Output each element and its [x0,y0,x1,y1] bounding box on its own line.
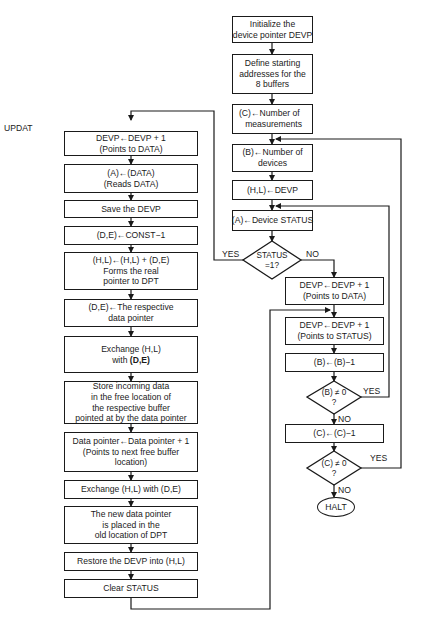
c-measurements-box: (C)←Number of measurements [232,104,313,134]
b-num-line-1: (B)←Number of [242,147,302,158]
define-line-3: 8 buffers [256,79,289,90]
b-dec-text: (B)←(B)−1 [314,357,355,368]
read-data-box: (A)←(DATA) (Reads DATA) [64,164,198,193]
s9-line-2: (Points to next free buffer [83,447,179,458]
init-line-2: device pointer DEVP [233,30,312,41]
b-decision-line-1: (B) ≠ 0 [312,388,356,398]
s11-line-2: is placed in the [102,520,159,531]
s8-line-4: pointed at by the data pointer [75,413,186,424]
b-decrement-box: (B)←(B)−1 [285,353,384,372]
s1-line-1: DEVP←DEVP + 1 [96,133,166,144]
halt-text: HALT [325,502,346,512]
updat-devp-data-box: DEVP←DEVP + 1 (Points to DATA) [64,131,198,156]
define-line-1: Define starting [245,58,300,69]
s7-de-bold: (D,E) [130,355,150,365]
hl-devp-text: (H,L)←DEVP [247,185,298,196]
devp-data-line-1: DEVP←DEVP + 1 [300,280,370,291]
status-no-label: NO [306,249,319,259]
s8-line-2: in the free location of [91,392,171,403]
s6-line-2: data pointer [108,313,153,324]
s9-line-3: location) [115,457,147,468]
devp-status-line-2: (Points to STATUS) [297,331,371,342]
store-data-box: Store incoming data in the free location… [64,381,198,424]
save-devp-box: Save the DEVP [64,200,198,218]
exchange-hl-de-box-1: Exchange (H,L) with (D,E) [64,336,198,373]
form-dpt-pointer-box: (H,L)←(H,L) + (D,E) Forms the real point… [64,252,198,290]
restore-devp-box: Restore the DEVP into (H,L) [64,552,198,571]
s12-text: Restore the DEVP into (H,L) [77,556,185,567]
s5-line-3: pointer to DPT [103,276,158,287]
s7-line-2: with (D,E) [112,355,150,366]
exchange-hl-de-box-2: Exchange (H,L) with (D,E) [64,480,198,499]
b-decision-text: (B) ≠ 0 ? [312,388,356,407]
a-status-box: (A)←Device STATUS [232,210,313,231]
devp-data-line-2: (Points to DATA) [303,291,366,302]
s7-line-1: Exchange (H,L) [101,344,161,355]
s3-text: Save the DEVP [101,204,161,215]
s8-line-1: Store incoming data [93,381,169,392]
a-status-text: (A)←Device STATUS [232,215,313,226]
status-decision-line-1: STATUS [250,251,294,261]
s13-text: Clear STATUS [103,583,159,594]
s7-with: with [112,355,127,365]
s6-line-1: (D,E)←The respective [88,302,173,313]
s2-line-1: (A)←(DATA) [107,168,154,179]
define-buffers-box: Define starting addresses for the 8 buff… [232,54,313,94]
c-yes-label: YES [370,453,387,463]
updat-label: UPDAT [4,123,33,133]
init-line-1: Initialize the [250,19,295,30]
b-num-line-2: devices [258,158,287,169]
increment-data-pointer-box: Data pointer←Data pointer + 1 (Points to… [64,432,198,472]
b-decision-line-2: ? [312,398,356,408]
status-yes-label: YES [222,249,239,259]
s5-line-2: Forms the real [103,266,158,277]
clear-status-box: Clear STATUS [64,579,198,598]
define-line-2: addresses for the [239,69,305,80]
s9-line-1: Data pointer←Data pointer + 1 [73,436,190,447]
c-num-line-1: (C)←Number of [233,108,300,119]
s10-text: Exchange (H,L) with (D,E) [81,484,181,495]
status-decision-text: STATUS =1? [250,251,294,270]
c-dec-text: (C)←(C)−1 [313,428,355,439]
s2-line-2: (Reads DATA) [104,179,159,190]
c-decision-line-1: (C) ≠ 0 [312,459,356,469]
hl-devp-box: (H,L)←DEVP [232,180,313,200]
s11-line-3: old location of DPT [95,530,168,541]
s1-line-2: (Points to DATA) [99,144,162,155]
c-decision-text: (C) ≠ 0 ? [312,459,356,478]
b-no-label: NO [338,414,351,424]
c-num-line-2: measurements [245,119,312,130]
s4-text: (D,E)←CONST−1 [97,230,166,241]
s8-line-3: the respective buffer [92,403,170,414]
c-decrement-box: (C)←(C)−1 [285,424,384,443]
c-no-label: NO [338,485,351,495]
halt-terminal: HALT [317,497,355,517]
b-yes-label: YES [363,386,380,396]
s5-line-1: (H,L)←(H,L) + (D,E) [93,255,170,266]
status-decision-line-2: =1? [250,261,294,271]
init-devp-box: Initialize the device pointer DEVP [232,16,313,43]
s11-line-1: The new data pointer [91,509,172,520]
devp-status-line-1: DEVP←DEVP + 1 [300,320,370,331]
b-devices-box: (B)←Number of devices [232,144,313,172]
store-new-pointer-box: The new data pointer is placed in the ol… [64,506,198,544]
c-decision-line-2: ? [312,469,356,479]
de-const-box: (D,E)←CONST−1 [64,226,198,245]
de-data-pointer-box: (D,E)←The respective data pointer [64,299,198,327]
devp-data-box: DEVP←DEVP + 1 (Points to DATA) [285,277,384,305]
devp-status-box: DEVP←DEVP + 1 (Points to STATUS) [285,317,384,345]
